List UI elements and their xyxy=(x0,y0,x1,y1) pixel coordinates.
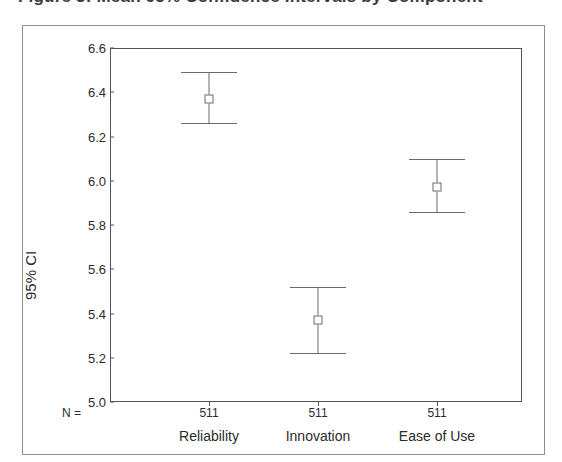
y-axis-title: 95% CI xyxy=(22,251,39,300)
y-axis-tick-labels: 6.66.46.26.05.85.65.45.25.0 xyxy=(58,48,106,402)
y-axis-tick-label: 5.4 xyxy=(88,306,106,321)
x-axis-category-label: Innovation xyxy=(286,428,351,444)
mean-marker xyxy=(205,94,214,103)
y-axis-tick-label: 5.6 xyxy=(88,262,106,277)
n-value: 511 xyxy=(427,406,446,420)
y-axis-tick-mark xyxy=(110,269,114,270)
mean-marker xyxy=(314,316,323,325)
y-axis-tick-label: 5.0 xyxy=(88,395,106,410)
y-axis-tick-mark xyxy=(110,313,114,314)
y-axis-tick-mark xyxy=(110,136,114,137)
y-axis-tick-mark xyxy=(110,225,114,226)
n-value: 511 xyxy=(199,406,218,420)
y-axis-tick-mark xyxy=(110,402,114,403)
n-row-label: N = xyxy=(62,406,81,420)
error-bar-upper-cap xyxy=(181,72,237,73)
figure-title-strip: Figure 3: Mean 95% Confidence Intervals … xyxy=(0,0,562,14)
error-bar-lower-cap xyxy=(181,123,237,124)
error-bar-upper-cap xyxy=(409,159,465,160)
y-axis-tick-label: 6.2 xyxy=(88,129,106,144)
y-axis-tick-label: 6.0 xyxy=(88,173,106,188)
y-axis-tick-mark xyxy=(110,48,114,49)
x-axis-category-label: Ease of Use xyxy=(399,428,475,444)
error-bar-lower-cap xyxy=(409,212,465,213)
error-bar-upper-cap xyxy=(290,287,346,288)
y-axis-tick-label: 6.4 xyxy=(88,85,106,100)
plot-area xyxy=(110,48,522,402)
y-axis-tick-mark xyxy=(110,92,114,93)
y-axis-tick-label: 5.2 xyxy=(88,350,106,365)
y-axis-tick-label: 6.6 xyxy=(88,41,106,56)
error-bar-lower-cap xyxy=(290,353,346,354)
y-axis-tick-label: 5.8 xyxy=(88,218,106,233)
y-axis-tick-mark xyxy=(110,357,114,358)
n-value: 511 xyxy=(308,406,327,420)
figure-title: Figure 3: Mean 95% Confidence Intervals … xyxy=(18,0,483,7)
y-axis-tick-mark xyxy=(110,180,114,181)
x-axis-category-label: Reliability xyxy=(179,428,239,444)
mean-marker xyxy=(433,183,442,192)
